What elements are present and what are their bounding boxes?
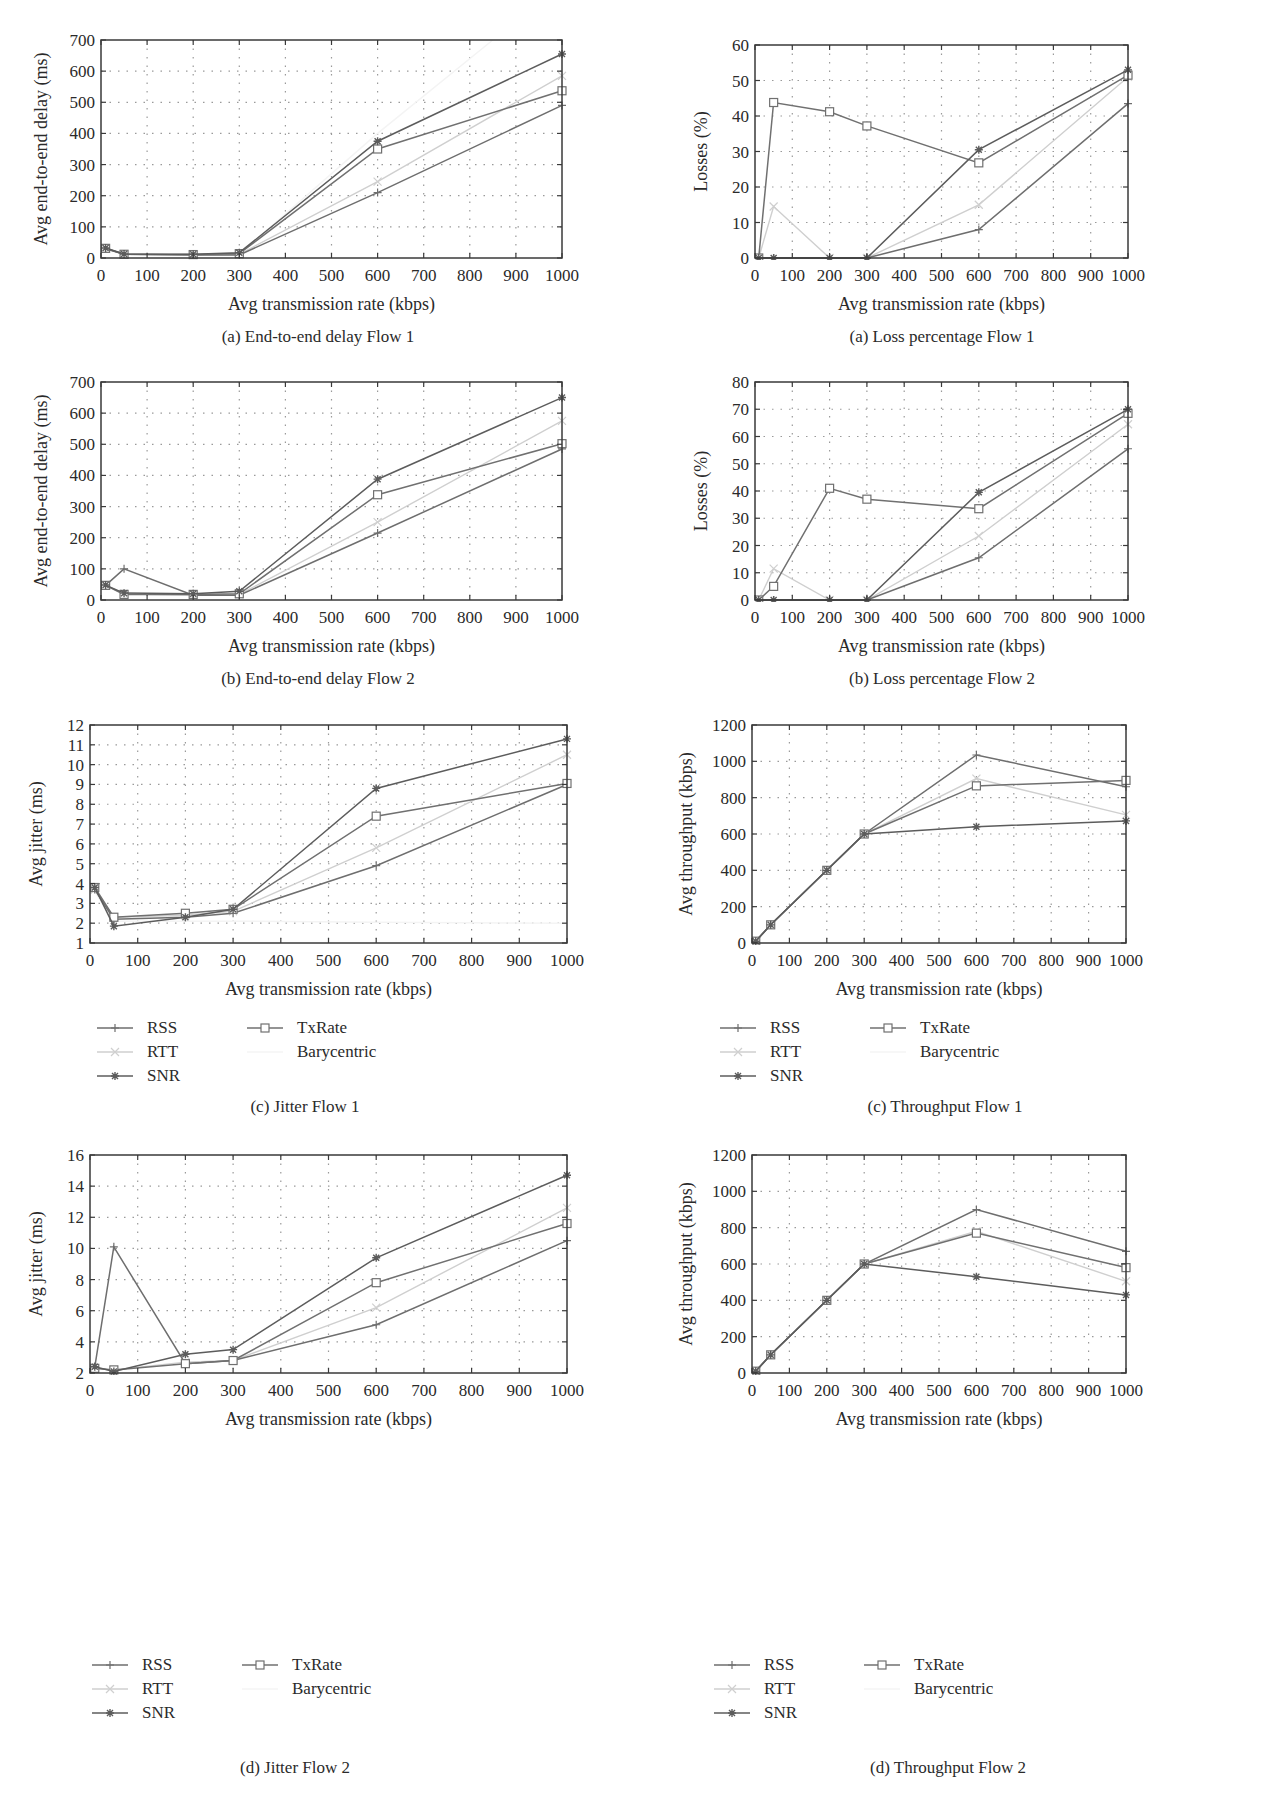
x-tick-label: 500 [926,1381,952,1400]
y-tick-label: 0 [738,1364,747,1383]
legend-item-rtt: RTT [718,1039,801,1063]
y-tick-label: 1200 [712,1146,746,1165]
legend-label: RSS [764,1655,794,1674]
legend-label: SNR [764,1703,797,1722]
legend-item-rss: RSS [95,1015,177,1039]
y-tick-label: 800 [721,1219,747,1238]
grid [752,1155,1126,1373]
legend-label: RTT [147,1042,178,1061]
x-tick-label: 600 [964,1381,990,1400]
legend-item-rtt: RTT [90,1676,173,1700]
x-tick-label: 900 [1076,1381,1102,1400]
series-rss [752,1206,1130,1376]
y-tick-label: 400 [721,1291,747,1310]
caption-jitter-flow1: (c) Jitter Flow 1 [250,1097,359,1117]
caption-delay-flow1: (a) End-to-end delay Flow 1 [222,327,415,347]
x-axis-label: Avg transmission rate (kbps) [835,1409,1042,1430]
legend-item-txrate: TxRate [240,1652,342,1676]
legend-item-barycentric: Barycentric [245,1039,376,1063]
legend-item-rss: RSS [90,1652,172,1676]
x-tick-label: 300 [851,1381,877,1400]
legend-swatch-icon [240,1653,280,1677]
legend-item-txrate: TxRate [862,1652,964,1676]
legend-item-txrate: TxRate [868,1015,970,1039]
legend-label: TxRate [292,1655,342,1674]
x-tick-label: 0 [748,1381,757,1400]
y-axis-label: Avg throughput (kbps) [676,1182,697,1346]
x-tick-label: 200 [814,1381,840,1400]
legend-item-snr: SNR [90,1700,175,1724]
legend-swatch-icon [718,1040,758,1064]
legend-swatch-icon [95,1040,135,1064]
caption-throughput-flow1: (c) Throughput Flow 1 [867,1097,1022,1117]
legend-swatch-icon [90,1653,130,1677]
chart-throughput-flow2: 0100200300400500600700800900100002004006… [0,0,1273,1500]
chart-svg: 0100200300400500600700800900100002004006… [0,0,1273,1500]
legend-label: RTT [142,1679,173,1698]
legend-swatch-icon [718,1064,758,1088]
legend-label: TxRate [914,1655,964,1674]
series-rtt [752,1227,1130,1375]
caption-delay-flow2: (b) End-to-end delay Flow 2 [221,669,415,689]
legend-item-snr: SNR [712,1700,797,1724]
legend-label: Barycentric [914,1679,993,1698]
x-tick-label: 800 [1038,1381,1064,1400]
legend-item-rss: RSS [712,1652,794,1676]
legend-label: Barycentric [920,1042,999,1061]
legend-label: RSS [770,1018,800,1037]
legend-swatch-icon [90,1701,130,1725]
legend-swatch-icon [245,1040,285,1064]
legend-item-rss: RSS [718,1015,800,1039]
legend-swatch-icon [245,1016,285,1040]
legend-item-rtt: RTT [95,1039,178,1063]
legend-item-snr: SNR [718,1063,803,1087]
legend-item-snr: SNR [95,1063,180,1087]
y-tick-label: 600 [721,1255,747,1274]
x-tick-label: 400 [889,1381,915,1400]
legend-label: RSS [147,1018,177,1037]
caption-loss-flow2: (b) Loss percentage Flow 2 [849,669,1035,689]
series-snr [752,1260,1130,1375]
legend-swatch-icon [712,1701,752,1725]
legend-label: SNR [147,1066,180,1085]
legend-swatch-icon [712,1653,752,1677]
legend-swatch-icon [868,1040,908,1064]
legend-swatch-icon [240,1677,280,1701]
legend-label: RTT [770,1042,801,1061]
legend-label: TxRate [297,1018,347,1037]
legend-item-barycentric: Barycentric [862,1676,993,1700]
x-tick-label: 700 [1001,1381,1027,1400]
legend-item-barycentric: Barycentric [868,1039,999,1063]
caption-throughput-flow2: (d) Throughput Flow 2 [870,1758,1026,1778]
legend-item-txrate: TxRate [245,1015,347,1039]
y-tick-label: 200 [721,1328,747,1347]
caption-jitter-flow2: (d) Jitter Flow 2 [240,1758,350,1778]
legend-label: SNR [142,1703,175,1722]
legend-swatch-icon [862,1677,902,1701]
x-tick-label: 1000 [1109,1381,1143,1400]
x-tick-label: 100 [777,1381,803,1400]
series-txrate [752,1229,1130,1375]
legend-swatch-icon [718,1016,758,1040]
legend-label: TxRate [920,1018,970,1037]
legend-swatch-icon [90,1677,130,1701]
legend-label: SNR [770,1066,803,1085]
legend-item-barycentric: Barycentric [240,1676,371,1700]
legend-swatch-icon [868,1016,908,1040]
caption-loss-flow1: (a) Loss percentage Flow 1 [849,327,1034,347]
legend-label: Barycentric [292,1679,371,1698]
legend-swatch-icon [862,1653,902,1677]
y-tick-label: 1000 [712,1182,746,1201]
legend-label: RSS [142,1655,172,1674]
legend-swatch-icon [95,1064,135,1088]
legend-label: RTT [764,1679,795,1698]
legend-item-rtt: RTT [712,1676,795,1700]
legend-swatch-icon [95,1016,135,1040]
legend-label: Barycentric [297,1042,376,1061]
legend-swatch-icon [712,1677,752,1701]
